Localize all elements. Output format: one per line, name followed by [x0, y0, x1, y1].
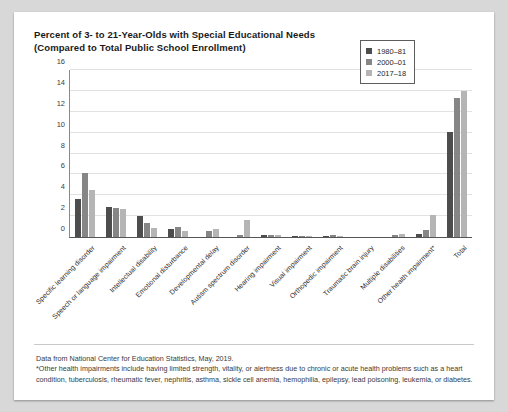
chart-legend: 1980–812000–012017–18: [360, 40, 415, 84]
chart-card: Percent of 3- to 21-Year-Olds with Speci…: [14, 12, 494, 400]
bar-group[interactable]: [379, 70, 410, 237]
bar-group[interactable]: [101, 70, 132, 237]
bar[interactable]: [392, 235, 398, 237]
bar[interactable]: [89, 190, 95, 237]
y-axis-tick: 16: [57, 57, 65, 66]
bar-group[interactable]: [70, 70, 101, 237]
y-axis-tick: 8: [61, 140, 65, 149]
bar[interactable]: [175, 227, 181, 237]
bar-plot: 0246810121416: [69, 70, 472, 238]
bar[interactable]: [144, 223, 150, 237]
bar-group[interactable]: [256, 70, 287, 237]
chart-footer: Data from National Center for Education …: [36, 354, 476, 385]
bar-group[interactable]: [441, 70, 472, 237]
legend-item[interactable]: 1980–81: [366, 46, 406, 56]
bar-group[interactable]: [225, 70, 256, 237]
y-axis-tick: 12: [57, 98, 65, 107]
bar-group[interactable]: [317, 70, 348, 237]
bar-group[interactable]: [348, 70, 379, 237]
plot-area: 0246810121416 Specific learning disorder…: [34, 64, 478, 260]
bar[interactable]: [237, 235, 243, 237]
bar[interactable]: [261, 235, 267, 237]
bar[interactable]: [206, 231, 212, 237]
bar-group[interactable]: [410, 70, 441, 237]
bar-group[interactable]: [194, 70, 225, 237]
x-axis-labels: Specific learning disorderSpeech or lang…: [69, 244, 472, 340]
bar[interactable]: [244, 220, 250, 237]
legend-swatch-icon: [366, 59, 372, 65]
footer-note: *Other health impairments include having…: [36, 364, 476, 385]
bar[interactable]: [299, 236, 305, 237]
bar[interactable]: [306, 236, 312, 237]
x-axis-label: Orthopedic impairment: [288, 244, 344, 300]
y-axis-tick: 14: [57, 77, 65, 86]
bar[interactable]: [292, 236, 298, 237]
bar[interactable]: [182, 231, 188, 237]
footer-divider: [34, 344, 474, 345]
bar[interactable]: [113, 208, 119, 237]
bar-group[interactable]: [163, 70, 194, 237]
bar[interactable]: [137, 216, 143, 237]
y-axis-tick: 10: [57, 119, 65, 128]
bar[interactable]: [213, 229, 219, 237]
bar[interactable]: [337, 236, 343, 237]
x-axis-label: Specific learning disorder: [34, 244, 95, 305]
legend-item[interactable]: 2017–18: [366, 68, 406, 78]
legend-label: 1980–81: [377, 47, 406, 56]
bar[interactable]: [275, 235, 281, 237]
bar[interactable]: [423, 230, 429, 237]
bar[interactable]: [151, 228, 157, 237]
bar[interactable]: [454, 98, 460, 237]
bar[interactable]: [416, 234, 422, 237]
x-axis-label: Total: [452, 244, 468, 260]
legend-item[interactable]: 2000–01: [366, 57, 406, 67]
bar[interactable]: [323, 236, 329, 237]
y-axis-tick: 2: [61, 203, 65, 212]
bar[interactable]: [430, 215, 436, 237]
bar[interactable]: [120, 209, 126, 237]
bar[interactable]: [75, 199, 81, 237]
x-axis-label: Other health impairment*: [376, 244, 437, 305]
y-axis-tick: 4: [61, 182, 65, 191]
bar[interactable]: [330, 235, 336, 237]
bar[interactable]: [268, 235, 274, 237]
x-axis-label: Autism spectrum disorder: [189, 244, 251, 306]
bar-group[interactable]: [286, 70, 317, 237]
footer-source: Data from National Center for Education …: [36, 354, 476, 364]
y-axis-tick: 0: [61, 224, 65, 233]
bar[interactable]: [399, 234, 405, 237]
bar-group[interactable]: [132, 70, 163, 237]
bar[interactable]: [461, 91, 467, 237]
legend-swatch-icon: [366, 70, 372, 76]
legend-label: 2017–18: [377, 69, 406, 78]
y-axis-tick: 6: [61, 161, 65, 170]
bar[interactable]: [447, 132, 453, 237]
legend-swatch-icon: [366, 48, 372, 54]
bar[interactable]: [106, 207, 112, 237]
bar[interactable]: [82, 173, 88, 237]
legend-label: 2000–01: [377, 58, 406, 67]
x-axis-label: Emotional disturbance: [134, 244, 189, 299]
bar[interactable]: [168, 229, 174, 237]
